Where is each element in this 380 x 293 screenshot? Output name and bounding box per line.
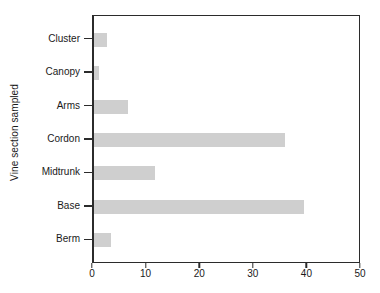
bar-row [94, 224, 359, 257]
bar-row [94, 157, 359, 190]
y-tick-label: Berm [56, 234, 80, 244]
y-tick-label-row: Base [22, 189, 84, 222]
bar-base [94, 200, 304, 214]
bar-row [94, 23, 359, 56]
x-tick-label: 10 [140, 269, 151, 279]
bars-layer [94, 23, 359, 257]
y-axis-title-text: Vine section sampled [9, 84, 20, 181]
y-tick-label: Midtrunk [42, 167, 80, 177]
bar-berm [94, 233, 111, 247]
bar-row [94, 56, 359, 89]
y-tick-label-row: Canopy [22, 55, 84, 88]
bar-chart: Vine section sampled ClusterCanopyArmsCo… [0, 0, 380, 293]
y-tick-label-row: Midtrunk [22, 156, 84, 189]
y-tick-label: Arms [57, 101, 80, 111]
bar-cordon [94, 133, 285, 147]
x-axis-tick-labels: 01020304050 [92, 269, 360, 285]
x-tick-label: 20 [194, 269, 205, 279]
bar-midtrunk [94, 166, 155, 180]
y-axis-tick-labels: ClusterCanopyArmsCordonMidtrunkBaseBerm [22, 22, 84, 256]
plot-area [92, 15, 360, 263]
x-tick-label: 30 [247, 269, 258, 279]
bar-canopy [94, 66, 99, 80]
y-tick-label: Cordon [47, 134, 80, 144]
x-tick-label: 0 [89, 269, 95, 279]
y-tick-label: Canopy [46, 67, 80, 77]
bar-row [94, 190, 359, 223]
bar-cluster [94, 33, 107, 47]
bar-row [94, 90, 359, 123]
bar-row [94, 123, 359, 156]
bar-arms [94, 100, 128, 114]
x-tick-label: 40 [301, 269, 312, 279]
y-tick-label: Base [57, 201, 80, 211]
y-tick-label-row: Cluster [22, 22, 84, 55]
y-tick-label: Cluster [48, 34, 80, 44]
y-tick-label-row: Berm [22, 223, 84, 256]
y-tick-label-row: Cordon [22, 122, 84, 155]
x-tick-label: 50 [354, 269, 365, 279]
y-tick-label-row: Arms [22, 89, 84, 122]
